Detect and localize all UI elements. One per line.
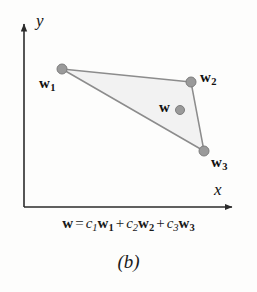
label-w1: w1 — [39, 76, 56, 91]
formula-term-2-vector: w2 — [138, 215, 154, 231]
figure-container: w1 w2 w3 w x y w=c1w1+c2w2+c3w3 (b) — [0, 0, 257, 292]
diagram-canvas — [0, 0, 257, 292]
figure-caption: (b) — [0, 252, 257, 271]
formula-equals: = — [73, 215, 85, 231]
x-axis-label: x — [214, 181, 222, 198]
formula-plus-1: + — [114, 215, 126, 231]
formula-plus-2: + — [154, 215, 166, 231]
formula-term-3-vector: w3 — [179, 215, 195, 231]
vertex-point-w1 — [57, 64, 67, 74]
formula-term-3-coefficient: c3 — [167, 215, 179, 231]
label-w2: w2 — [200, 70, 217, 85]
formula-expression: w=c1w1+c2w2+c3w3 — [0, 216, 257, 231]
y-axis-label: y — [36, 12, 44, 29]
vertex-point-w2 — [186, 77, 196, 87]
vertex-point-w3 — [199, 146, 209, 156]
formula-term-1-vector: w1 — [98, 215, 114, 231]
interior-point-w — [176, 106, 185, 115]
formula-term-1-coefficient: c1 — [86, 215, 98, 231]
label-w3: w3 — [211, 155, 228, 170]
label-w: w — [159, 100, 170, 115]
formula-term-2-coefficient: c2 — [126, 215, 138, 231]
formula-lhs: w — [62, 215, 73, 231]
